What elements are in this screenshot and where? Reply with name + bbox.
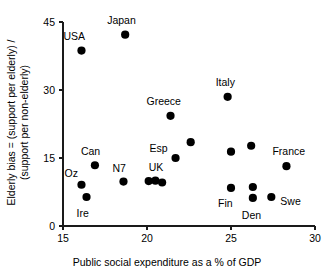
data-point: [227, 148, 235, 156]
data-point: [171, 154, 179, 162]
axes: [63, 22, 315, 226]
y-tick-label: 30: [43, 84, 55, 96]
data-point: [267, 193, 275, 201]
plot-canvas: 015304515202530: [0, 0, 334, 274]
x-tick-label: 25: [225, 232, 237, 244]
data-point: [91, 161, 99, 169]
data-point: [249, 194, 257, 202]
y-tick-label: 45: [43, 16, 55, 28]
axis-ticks: [59, 22, 315, 230]
data-point: [187, 138, 195, 146]
y-tick-label: 0: [49, 220, 55, 232]
data-point: [158, 178, 166, 186]
x-tick-label: 30: [309, 232, 321, 244]
y-tick-label: 15: [43, 152, 55, 164]
data-point: [224, 93, 232, 101]
data-point: [77, 46, 85, 54]
data-point: [166, 112, 174, 120]
data-point: [227, 184, 235, 192]
y-axis-label: Elderly bias = (support per elderly) / (…: [5, 13, 30, 233]
data-point: [77, 181, 85, 189]
scatter-plot-figure: 015304515202530 USAJapanItalyGreeceEspCa…: [0, 0, 334, 274]
y-axis-label-line1: Elderly bias = (support per elderly) /: [5, 39, 17, 205]
data-point: [119, 177, 127, 185]
data-point: [121, 31, 129, 39]
x-tick-label: 15: [57, 232, 69, 244]
data-point: [249, 183, 257, 191]
data-point: [282, 162, 290, 170]
x-axis-label: Public social expenditure as a % of GDP: [0, 256, 334, 268]
y-axis-label-line2: (support per non-elderly): [17, 65, 29, 180]
x-tick-label: 20: [141, 232, 153, 244]
data-point: [247, 142, 255, 150]
data-point: [82, 193, 90, 201]
data-points: [77, 31, 290, 202]
